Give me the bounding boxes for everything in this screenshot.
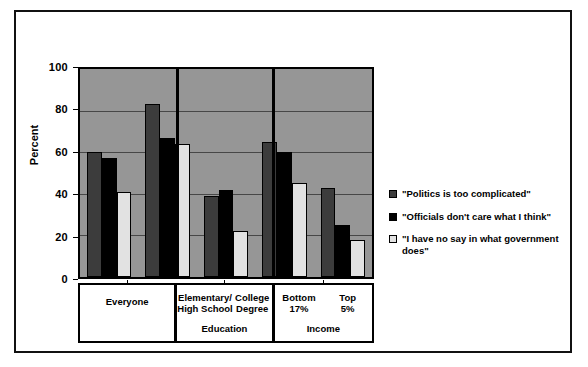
- bar-group: [197, 69, 255, 277]
- bar: [321, 188, 336, 277]
- legend-swatch-icon: [389, 190, 397, 198]
- y-tick-mark-0: [73, 279, 78, 280]
- bar: [350, 240, 365, 277]
- bar: [219, 190, 234, 277]
- group-title-income: Income: [275, 323, 372, 334]
- bar: [292, 183, 307, 277]
- legend-label: "Politics is too complicated": [402, 188, 531, 200]
- category-label-line: Everyone: [106, 296, 149, 307]
- bar: [117, 192, 132, 277]
- legend: "Politics is too complicated""Officials …: [389, 188, 574, 267]
- chart-frame: Percent 020406080100 Everyone Elementary…: [14, 10, 572, 353]
- category-cell-education: Elementary/High School CollegeDegree Edu…: [177, 285, 274, 341]
- legend-item[interactable]: "Officials don't care what I think": [389, 211, 574, 223]
- category-label-line: 5%: [341, 303, 355, 314]
- category-label-line: 17%: [289, 303, 308, 314]
- category-label-line: High School: [177, 303, 232, 314]
- bar-group: [138, 69, 196, 277]
- y-axis-ticks: 020406080100: [36, 60, 74, 286]
- legend-swatch-icon: [389, 213, 397, 221]
- bar-group: [80, 69, 138, 277]
- legend-swatch-icon: [389, 235, 397, 243]
- y-tick-label-0: 0: [62, 273, 68, 285]
- y-tick-label-60: 60: [55, 146, 68, 158]
- bar: [233, 231, 248, 277]
- category-cell-income: Bottom17% Top5% Income: [275, 285, 372, 341]
- bar: [277, 152, 292, 277]
- y-tick-label-20: 20: [55, 231, 68, 243]
- category-cell-everyone: Everyone: [80, 285, 177, 341]
- bar: [102, 158, 117, 277]
- group-separator-1: [176, 69, 179, 277]
- category-label-line: Elementary/: [178, 292, 232, 303]
- group-title-education: Education: [177, 323, 271, 334]
- bar: [335, 225, 350, 277]
- y-tick-label-80: 80: [55, 103, 68, 115]
- legend-label: "Officials don't care what I think": [402, 211, 551, 223]
- category-label-line: Top: [339, 292, 356, 303]
- category-label-line: Degree: [236, 303, 268, 314]
- bar: [204, 196, 219, 277]
- chart-page: Percent 020406080100 Everyone Elementary…: [0, 0, 588, 367]
- bar-group: [314, 69, 372, 277]
- category-label-everyone: Everyone: [80, 285, 174, 341]
- legend-item[interactable]: "Politics is too complicated": [389, 188, 574, 200]
- legend-item[interactable]: "I have no say in what government does": [389, 233, 574, 256]
- x-tick-mark: [127, 280, 128, 285]
- bar-group: [255, 69, 313, 277]
- x-tick-mark: [323, 280, 324, 285]
- x-tick-mark: [224, 280, 225, 285]
- bar-groups: [80, 69, 372, 277]
- category-label-line: Bottom: [282, 292, 315, 303]
- y-tick-label-40: 40: [55, 188, 68, 200]
- bar: [145, 104, 160, 277]
- bar: [87, 152, 102, 277]
- plot-area: [78, 67, 374, 279]
- y-tick-label-100: 100: [49, 61, 68, 73]
- legend-label: "I have no say in what government does": [402, 233, 574, 256]
- category-label-line: College: [235, 292, 269, 303]
- category-band: Everyone Elementary/High School CollegeD…: [78, 283, 374, 343]
- bar: [160, 138, 175, 277]
- group-separator-2: [272, 69, 275, 277]
